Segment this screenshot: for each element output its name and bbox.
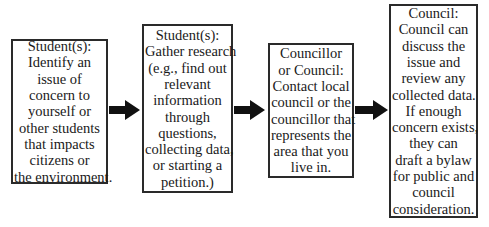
step-1-text: that impacts — [14, 136, 105, 152]
step-4-text: they can — [392, 135, 475, 151]
step-2-text: questions, — [145, 125, 230, 141]
right-arrow-icon — [109, 99, 141, 121]
step-4-text: review any — [392, 70, 475, 86]
step-1-text: yourself or — [14, 103, 105, 119]
step-1-text: Identify an — [14, 54, 105, 70]
step-2-text: through — [145, 109, 230, 125]
step-box-gather-research: Student(s): Gather research (e.g., find … — [142, 24, 233, 193]
step-1-title: Student(s): — [14, 38, 105, 54]
step-box-council-review: Council: Council can discuss the issue a… — [389, 4, 478, 218]
step-2-text: relevant — [145, 76, 230, 92]
step-3-text: council or the — [271, 94, 351, 110]
step-4-title: Council: — [392, 5, 475, 21]
step-2-text: or starting a — [145, 157, 230, 173]
step-4-text: collected data. — [392, 87, 475, 103]
step-4-text: council — [392, 184, 475, 200]
step-4-text: If enough — [392, 103, 475, 119]
step-box-contact-council: Councillor or Council: Contact local cou… — [268, 43, 354, 178]
right-arrow-icon — [234, 99, 266, 121]
step-3-title: or Council: — [271, 62, 351, 78]
step-2-text: (e.g., find out — [145, 60, 230, 76]
step-3-text: represents the — [271, 127, 351, 143]
step-3-text: councillor that — [271, 111, 351, 127]
step-box-identify-issue: Student(s): Identify an issue of concern… — [11, 39, 108, 184]
step-3-title: Councillor — [271, 45, 351, 61]
step-1-text: the environment. — [14, 169, 105, 185]
step-2-text: Gather research — [145, 43, 230, 59]
step-1-text: concern to — [14, 87, 105, 103]
step-4-text: Council can — [392, 21, 475, 37]
right-arrow-icon — [355, 99, 389, 121]
step-4-text: for public and — [392, 168, 475, 184]
step-1-text: citizens or — [14, 152, 105, 168]
step-2-text: information — [145, 92, 230, 108]
step-3-text: live in. — [271, 159, 351, 175]
step-2-text: petition.) — [145, 174, 230, 190]
step-2-text: collecting data, — [145, 141, 230, 157]
step-4-text: concern exists, — [392, 119, 475, 135]
step-4-text: consideration. — [392, 201, 475, 217]
step-1-text: issue of — [14, 71, 105, 87]
step-4-text: issue and — [392, 54, 475, 70]
step-4-text: discuss the — [392, 38, 475, 54]
step-3-text: area that you — [271, 143, 351, 159]
step-1-text: other students — [14, 120, 105, 136]
step-4-text: draft a bylaw — [392, 152, 475, 168]
step-2-title: Student(s): — [145, 27, 230, 43]
step-3-text: Contact local — [271, 78, 351, 94]
